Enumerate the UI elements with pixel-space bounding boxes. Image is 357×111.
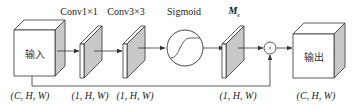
- conv3x3-shape-label: (1, H, W): [116, 90, 153, 101]
- ms-label: Ms: [228, 5, 239, 18]
- conv3x3-label: Conv3×3: [107, 6, 144, 17]
- ms-label-main: M: [228, 5, 237, 16]
- sigmoid-label: Sigmoid: [167, 6, 201, 17]
- conv1x1-feature-map: [80, 26, 102, 78]
- ms-label-subscript: s: [237, 12, 239, 18]
- ms-attention-map: [222, 26, 244, 78]
- output-shape-label: (C, H, W): [297, 90, 336, 101]
- output-label: 输出: [304, 49, 324, 64]
- ms-shape-label: (1, H, W): [219, 90, 256, 101]
- multiply-node: [264, 42, 276, 54]
- conv1x1-shape-label: (1, H, W): [71, 90, 108, 101]
- conv3x3-feature-map: [123, 26, 145, 78]
- conv1x1-label: Conv1×1: [60, 6, 97, 17]
- sigmoid-function-node: [167, 30, 203, 66]
- spatial-attention-diagram: Conv1×1 Conv3×3 Sigmoid Ms 输入 输出 (C, H, …: [0, 0, 357, 111]
- input-shape-label: (C, H, W): [11, 90, 50, 101]
- input-label: 输入: [25, 46, 45, 61]
